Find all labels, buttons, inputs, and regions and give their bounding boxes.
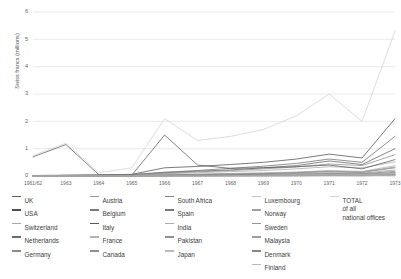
x-tick-label: 1965 (126, 180, 137, 186)
plot-area: 0123456 1961/621963196419651966196719681… (0, 0, 401, 188)
chart-legend: UKUSASwitzerlandNetherlandsGermanyAustri… (12, 192, 401, 279)
legend-label: Japan (178, 250, 195, 258)
legend-swatch-line-icon (330, 196, 339, 198)
legend-label: Pakistan (178, 236, 203, 244)
x-tick-label: 1968 (225, 180, 236, 186)
y-tick-label: 2 (25, 118, 28, 124)
legend-swatch-line-icon (252, 209, 261, 211)
legend-swatch-line-icon (165, 250, 174, 252)
legend-label: Italy (103, 223, 115, 231)
legend-item[interactable]: USA (12, 206, 59, 220)
x-tick-label: 1970 (291, 180, 302, 186)
legend-item[interactable]: Austria (90, 192, 126, 206)
legend-label: Malaysia (265, 236, 290, 244)
legend-swatch-line-icon (12, 209, 21, 211)
y-axis-ticks: 0123456 (25, 8, 28, 178)
legend-label: France (103, 236, 123, 244)
chart-page: Swiss francs (millions) 0123456 1961/621… (0, 0, 401, 279)
legend-column: TOTALof allnational offices (330, 192, 385, 206)
x-tick-label: 1969 (258, 180, 269, 186)
legend-item[interactable]: Denmark (252, 246, 300, 260)
legend-swatch-line-icon (252, 250, 261, 252)
legend-item[interactable]: Germany (12, 246, 59, 260)
legend-swatch-line-icon (12, 196, 21, 198)
x-tick-label: 1972 (357, 180, 368, 186)
legend-item[interactable]: UK (12, 192, 59, 206)
legend-label: Netherlands (25, 236, 59, 244)
legend-item[interactable]: Sweden (252, 219, 300, 233)
legend-label: India (178, 223, 192, 231)
legend-item[interactable]: India (165, 219, 212, 233)
line-chart: Swiss francs (millions) 0123456 1961/621… (0, 0, 401, 188)
legend-item[interactable]: Switzerland (12, 219, 59, 233)
series-line (33, 145, 395, 175)
legend-item[interactable]: Norway (252, 206, 300, 220)
legend-swatch-line-icon (252, 236, 261, 238)
legend-item[interactable]: Malaysia (252, 233, 300, 247)
x-tick-label: 1971 (324, 180, 335, 186)
x-axis-ticks: 1961/62196319641965196619671968196919701… (24, 180, 401, 186)
legend-item[interactable]: Netherlands (12, 233, 59, 247)
legend-column: UKUSASwitzerlandNetherlandsGermany (12, 192, 59, 260)
legend-swatch-line-icon (90, 236, 99, 238)
legend-swatch-line-icon (90, 250, 99, 252)
legend-item[interactable]: South Africa (165, 192, 212, 206)
legend-swatch-line-icon (165, 223, 174, 225)
data-series-group (33, 31, 395, 176)
legend-label: Austria (103, 196, 123, 204)
series-line (33, 136, 395, 175)
legend-column: LuxembourgNorwaySwedenMalaysiaDenmarkFin… (252, 192, 300, 274)
legend-label: Spain (178, 209, 194, 217)
legend-column: South AfricaSpainIndiaPakistanJapan (165, 192, 212, 260)
x-tick-label: 1966 (159, 180, 170, 186)
legend-label: USA (25, 209, 38, 217)
y-tick-label: 0 (25, 172, 28, 178)
x-tick-label: 1973 (389, 180, 400, 186)
y-tick-label: 3 (25, 90, 28, 96)
legend-label: Canada (103, 250, 125, 258)
y-tick-label: 1 (25, 145, 28, 151)
legend-label: Switzerland (25, 223, 58, 231)
legend-item[interactable]: Finland (252, 260, 300, 274)
legend-label: TOTAL (343, 196, 363, 204)
y-tick-label: 5 (25, 36, 28, 42)
legend-item[interactable]: France (90, 233, 126, 247)
legend-item[interactable]: TOTALof allnational offices (330, 192, 385, 206)
legend-swatch-line-icon (252, 264, 261, 266)
y-tick-label: 4 (25, 63, 28, 69)
legend-label: Germany (25, 250, 51, 258)
legend-swatch-line-icon (90, 209, 99, 211)
legend-item[interactable]: Japan (165, 246, 212, 260)
legend-label: Norway (265, 209, 287, 217)
legend-label-continued: of all (343, 204, 386, 213)
legend-label-continued: national offices (343, 213, 386, 222)
legend-item[interactable]: Spain (165, 206, 212, 220)
legend-swatch-line-icon (12, 223, 21, 225)
x-tick-label: 1963 (60, 180, 71, 186)
x-tick-label: 1964 (93, 180, 104, 186)
legend-swatch-line-icon (252, 196, 261, 198)
legend-label: Luxembourg (265, 196, 301, 204)
legend-swatch-line-icon (12, 236, 21, 238)
legend-label: South Africa (178, 196, 212, 204)
legend-label: Denmark (265, 250, 291, 258)
series-line (33, 31, 395, 173)
legend-item[interactable]: Belgium (90, 206, 126, 220)
legend-label: Finland (265, 263, 286, 271)
legend-swatch-line-icon (12, 250, 21, 252)
legend-item[interactable]: Italy (90, 219, 126, 233)
legend-swatch-line-icon (252, 223, 261, 225)
legend-swatch-line-icon (165, 236, 174, 238)
legend-column: AustriaBelgiumItalyFranceCanada (90, 192, 126, 260)
legend-item[interactable]: Pakistan (165, 233, 212, 247)
y-tick-label: 6 (25, 8, 28, 14)
legend-item[interactable]: Luxembourg (252, 192, 300, 206)
legend-swatch-line-icon (165, 209, 174, 211)
legend-label: Belgium (103, 209, 126, 217)
x-tick-label: 1967 (192, 180, 203, 186)
legend-label: UK (25, 196, 34, 204)
gridlines (33, 12, 395, 176)
legend-label: Sweden (265, 223, 288, 231)
legend-item[interactable]: Canada (90, 246, 126, 260)
legend-swatch-line-icon (90, 223, 99, 225)
